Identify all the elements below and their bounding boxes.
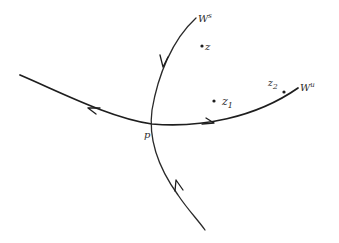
point-z2-dot [282, 90, 285, 93]
point-z1-label: z1 [221, 95, 233, 110]
manifold-diagram: Ws z z1 z2 Wu p [0, 0, 339, 243]
fixed-point-label: p [144, 129, 151, 140]
unstable-manifold-label: Wu [300, 81, 315, 93]
point-z-dot [200, 44, 203, 47]
stable-manifold-label: Ws [198, 12, 212, 24]
point-z1-dot [212, 99, 215, 102]
point-z2-label: z2 [267, 78, 278, 91]
stable-bottom-arrow-icon [175, 180, 183, 191]
point-z-label: z [204, 41, 211, 52]
